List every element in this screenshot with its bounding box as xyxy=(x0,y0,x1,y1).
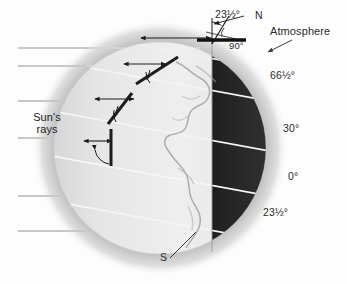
atmosphere-label: Atmosphere xyxy=(270,26,330,38)
latitude-label-30: 30° xyxy=(283,123,299,134)
north-pole-label: N xyxy=(255,10,263,21)
latitude-label-0: 0° xyxy=(288,171,298,182)
axis-tilt-label: 23½° xyxy=(215,9,240,20)
south-pole-label: S xyxy=(160,252,167,263)
diagram-canvas: Sun's rays 23½° N 90° Atmosphere 66½° 30… xyxy=(0,0,347,284)
latitude-label-66: 66½° xyxy=(270,70,295,81)
sun-rays-label: Sun's rays xyxy=(14,112,80,135)
sun-rays-label-line1: Sun's xyxy=(14,112,80,124)
sun-rays-label-line2: rays xyxy=(14,124,80,136)
latitude-label-23-south: 23½° xyxy=(263,207,288,218)
atmosphere-label-leader xyxy=(268,40,292,52)
right-angle-label: 90° xyxy=(229,41,244,51)
earth-atmosphere-diagram xyxy=(0,0,347,284)
